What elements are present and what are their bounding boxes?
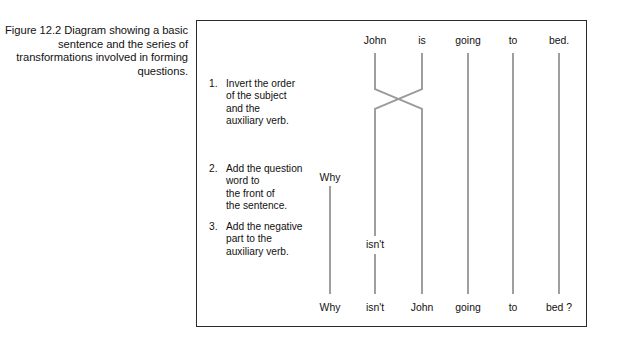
step-3-line-3: auxiliary verb. [226, 246, 302, 258]
bottom-word-going: going [455, 302, 480, 313]
bottom-word-why: Why [320, 302, 341, 313]
mid-word-why: Why [320, 172, 341, 183]
step-2-line-2: word to [226, 175, 302, 187]
figure-caption: Figure 12.2 Diagram showing a basic sent… [2, 24, 188, 78]
step-text-1: Invert the order of the subject and the … [226, 78, 295, 128]
step-3-line-1: Add the negative [226, 221, 302, 233]
step-text-2: Add the question word to the front of th… [226, 163, 302, 213]
step-item-3: 3. Add the negative part to the auxiliar… [209, 221, 302, 258]
step-number-3: 3. [209, 221, 226, 258]
line-is-upper [375, 53, 422, 236]
step-1-line-3: and the [226, 103, 295, 115]
step-item-1: 1. Invert the order of the subject and t… [209, 78, 295, 128]
top-word-is: is [418, 35, 426, 46]
diagram-frame: 1. Invert the order of the subject and t… [196, 20, 587, 327]
bottom-word-john: John [411, 302, 434, 313]
step-3-line-2: part to the [226, 233, 302, 245]
bottom-word-to: to [509, 302, 518, 313]
bottom-word-isnt: isn't [366, 302, 384, 313]
step-2-line-1: Add the question [226, 163, 302, 175]
bottom-word-bed: bed ? [546, 302, 572, 313]
step-2-line-3: the front of [226, 188, 302, 200]
top-word-bed: bed. [549, 35, 569, 46]
top-word-going: going [455, 35, 480, 46]
step-1-line-4: auxiliary verb. [226, 115, 295, 127]
step-item-2: 2. Add the question word to the front of… [209, 163, 302, 213]
step-number-2: 2. [209, 163, 226, 213]
line-john [375, 53, 422, 294]
step-1-line-2: of the subject [226, 90, 295, 102]
top-word-john: John [364, 35, 387, 46]
step-2-line-4: the sentence. [226, 200, 302, 212]
step-number-1: 1. [209, 78, 226, 128]
mid-word-isnt: isn't [366, 239, 384, 250]
step-1-line-1: Invert the order [226, 78, 295, 90]
top-word-to: to [509, 35, 518, 46]
step-text-3: Add the negative part to the auxiliary v… [226, 221, 302, 258]
